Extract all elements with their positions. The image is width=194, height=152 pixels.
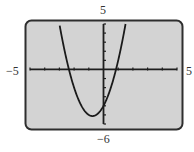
x-max-label: 5 xyxy=(186,65,192,77)
y-max-label: 5 xyxy=(100,4,106,16)
graphing-calculator-screen xyxy=(0,0,194,152)
y-min-label: −6 xyxy=(97,133,110,145)
x-min-label: −5 xyxy=(6,65,19,77)
